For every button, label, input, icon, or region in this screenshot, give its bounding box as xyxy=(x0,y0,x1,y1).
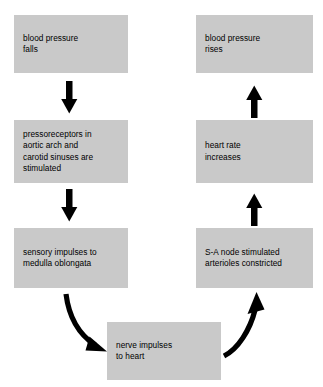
arrow-up-heart-rate-to-bp-rises xyxy=(246,86,262,119)
flowchart-diagram: blood pressure falls blood pressure rise… xyxy=(0,0,323,387)
node-pressoreceptors-stimulated: pressoreceptors in aortic arch and carot… xyxy=(14,120,128,183)
arrow-curved-sensory-to-nerve-impulses xyxy=(66,294,107,352)
node-label: blood pressure falls xyxy=(14,33,82,55)
node-nerve-impulses-to-heart: nerve impulses to heart xyxy=(107,322,221,380)
arrow-up-sa-node-to-heart-rate xyxy=(246,194,262,227)
node-label: S-A node stimulated arterioles constrict… xyxy=(196,247,286,269)
arrow-curved-nerve-impulses-to-sa-node xyxy=(224,292,265,356)
node-label: nerve impulses to heart xyxy=(107,340,176,362)
node-heart-rate-increases: heart rate increases xyxy=(196,120,313,183)
node-sa-node-stimulated: S-A node stimulated arterioles constrict… xyxy=(196,228,313,288)
node-label: blood pressure rises xyxy=(196,33,264,55)
node-blood-pressure-rises: blood pressure rises xyxy=(196,15,313,73)
node-label: sensory impulses to medulla oblongata xyxy=(14,247,101,269)
arrow-down-bp-falls-to-pressoreceptors xyxy=(61,81,77,114)
node-label: heart rate increases xyxy=(196,140,245,162)
node-label: pressoreceptors in aortic arch and carot… xyxy=(14,129,97,174)
node-blood-pressure-falls: blood pressure falls xyxy=(14,15,128,73)
arrow-down-pressoreceptors-to-sensory xyxy=(61,189,77,222)
node-sensory-impulses-medulla: sensory impulses to medulla oblongata xyxy=(14,228,128,288)
